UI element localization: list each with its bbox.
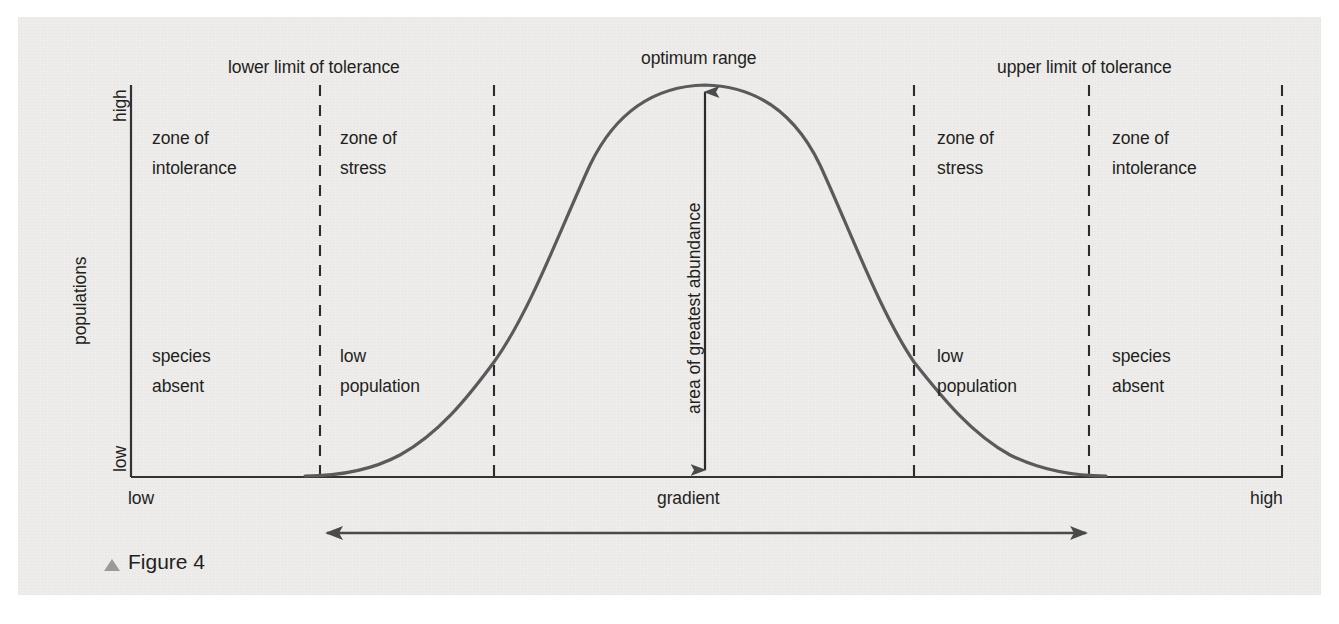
figure-caption: Figure 4 [128, 550, 205, 574]
zone-of-stress-left-line1: zone of [340, 125, 397, 151]
lower-limit-of-tolerance-label: lower limit of tolerance [228, 55, 400, 80]
low-population-right-line1: low [937, 343, 963, 369]
x-axis-title: gradient [657, 486, 719, 511]
zone-of-stress-right-line2: stress [937, 155, 983, 181]
species-absent-right-line2: absent [1112, 373, 1164, 399]
zone-of-intolerance-left-line2: intolerance [152, 155, 237, 181]
tolerance-curve-chart [0, 0, 1339, 624]
triangle-up-icon [104, 559, 120, 571]
zone-of-intolerance-right-line2: intolerance [1112, 155, 1197, 181]
figure-page: lower limit of tolerance optimum range u… [0, 0, 1339, 624]
low-population-left-line1: low [340, 343, 366, 369]
zone-of-intolerance-left-line1: zone of [152, 125, 209, 151]
upper-limit-of-tolerance-label: upper limit of tolerance [997, 55, 1172, 80]
y-axis-title: populations [68, 257, 93, 345]
y-axis-high-tick-label: high [108, 89, 133, 122]
optimum-range-label: optimum range [641, 46, 756, 71]
y-axis-low-tick-label: low [108, 446, 133, 472]
species-absent-left-line2: absent [152, 373, 204, 399]
area-of-greatest-abundance-label: area of greatest abundance [682, 203, 707, 414]
zone-of-stress-left-line2: stress [340, 155, 386, 181]
zone-of-stress-right-line1: zone of [937, 125, 994, 151]
x-axis-high-tick-label: high [1250, 486, 1283, 511]
species-absent-left-line1: species [152, 343, 211, 369]
x-axis-low-tick-label: low [128, 486, 154, 511]
low-population-left-line2: population [340, 373, 420, 399]
zone-of-intolerance-right-line1: zone of [1112, 125, 1169, 151]
species-absent-right-line1: species [1112, 343, 1171, 369]
low-population-right-line2: population [937, 373, 1017, 399]
